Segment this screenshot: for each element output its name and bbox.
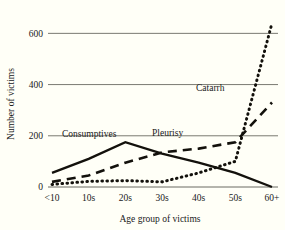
x-tick-label: 40s: [192, 193, 206, 203]
series-label-consumptives: Consumptives: [62, 129, 117, 139]
series-label-pleurisy: Pleurisy: [152, 128, 183, 138]
series-annotations: ConsumptivesPleurisyCatarrh: [62, 83, 225, 139]
x-tick-label: 20s: [119, 193, 133, 203]
x-axis-tick-labels: <1010s20s30s40s50s60+: [45, 193, 280, 203]
series-label-catarrh: Catarrh: [196, 83, 225, 93]
chart-container: 0200400600 <1010s20s30s40s50s60+ Consump…: [0, 0, 285, 230]
x-axis-title: Age group of victims: [119, 214, 200, 224]
y-axis-tick-labels: 0200400600: [29, 29, 44, 193]
y-tick-label: 600: [29, 29, 44, 39]
x-tick-label: <10: [45, 193, 60, 203]
x-tick-label: 30s: [155, 193, 169, 203]
y-axis-title: Number of victims: [6, 68, 16, 140]
x-tick-label: 10s: [82, 193, 96, 203]
gridlines: [48, 33, 278, 187]
victims-by-age-line-chart: 0200400600 <1010s20s30s40s50s60+ Consump…: [0, 0, 285, 230]
y-tick-label: 0: [38, 182, 43, 192]
y-tick-label: 400: [29, 80, 44, 90]
x-tick-label: 60+: [265, 193, 280, 203]
x-tick-label: 50s: [229, 193, 243, 203]
data-series-group: [52, 23, 272, 187]
y-tick-label: 200: [29, 131, 44, 141]
